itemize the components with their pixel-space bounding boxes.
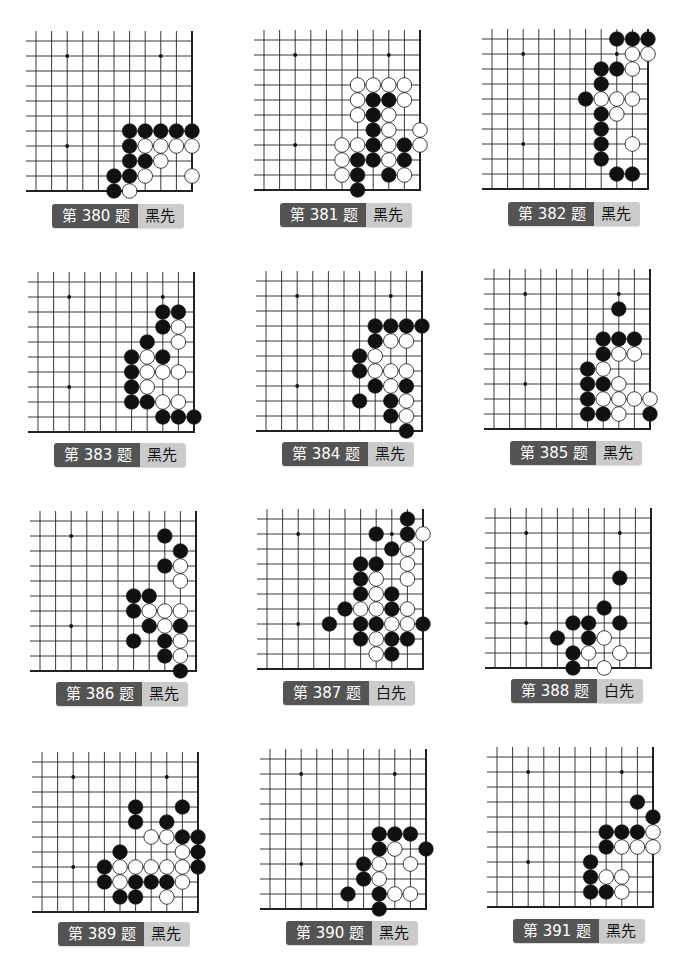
black-stone [187, 410, 202, 425]
white-stone [384, 364, 399, 379]
black-stone [353, 557, 368, 572]
go-board[interactable] [256, 271, 434, 443]
black-stone [113, 845, 128, 860]
black-stone [580, 377, 595, 392]
go-board[interactable] [28, 272, 206, 444]
black-stone [630, 825, 645, 840]
black-stone [352, 349, 367, 364]
star-point [296, 532, 300, 536]
go-board[interactable] [32, 752, 210, 924]
star-point [69, 624, 73, 628]
white-stone [612, 377, 627, 392]
go-board[interactable] [487, 747, 665, 919]
black-stone [599, 840, 614, 855]
black-stone [372, 842, 387, 857]
star-point [165, 775, 169, 779]
white-stone [597, 631, 612, 646]
white-stone [399, 409, 414, 424]
black-stone [124, 395, 139, 410]
black-stone [416, 617, 431, 632]
black-stone [350, 168, 365, 183]
black-stone [583, 855, 598, 870]
white-stone [400, 542, 415, 557]
black-stone [397, 138, 412, 153]
black-stone [369, 527, 384, 542]
white-stone [403, 857, 418, 872]
problem-number: 第 383 题 [54, 443, 140, 467]
black-stone [368, 379, 383, 394]
white-stone [156, 365, 171, 380]
white-stone [612, 407, 627, 422]
black-stone [372, 827, 387, 842]
go-board[interactable] [482, 29, 660, 201]
black-stone [399, 424, 414, 439]
white-stone [185, 169, 200, 184]
go-problem-382: 第 382 题 黑先 [482, 29, 682, 229]
black-stone [643, 407, 658, 422]
black-stone [594, 122, 609, 137]
black-stone [625, 32, 640, 47]
black-stone [583, 870, 598, 885]
white-stone [382, 138, 397, 153]
black-stone [126, 634, 141, 649]
star-point [620, 770, 624, 774]
white-stone [173, 649, 188, 664]
go-board[interactable] [26, 31, 204, 203]
go-board[interactable] [484, 269, 662, 441]
black-stone [566, 661, 581, 676]
go-board[interactable] [30, 511, 208, 683]
problem-number: 第 386 题 [56, 682, 142, 706]
black-stone [353, 632, 368, 647]
star-point [295, 294, 299, 298]
black-stone [175, 830, 190, 845]
first-move-indicator: 白先 [597, 679, 643, 703]
white-stone [160, 890, 175, 905]
problem-label: 第 388 题 白先 [511, 679, 643, 703]
black-stone [366, 123, 381, 138]
go-problem-387: 第 387 题 白先 [257, 509, 457, 709]
star-point [299, 862, 303, 866]
black-stone [415, 319, 430, 334]
black-stone [583, 885, 598, 900]
black-stone [594, 62, 609, 77]
white-stone [397, 78, 412, 93]
black-stone [158, 529, 173, 544]
black-stone [630, 795, 645, 810]
black-stone [382, 168, 397, 183]
black-stone [613, 616, 628, 631]
white-stone [138, 139, 153, 154]
black-stone [610, 32, 625, 47]
go-board[interactable] [254, 30, 432, 202]
black-stone [550, 631, 565, 646]
star-point [618, 531, 622, 535]
white-stone [400, 602, 415, 617]
black-stone [352, 364, 367, 379]
go-board[interactable] [257, 509, 435, 681]
go-board[interactable] [260, 749, 438, 921]
black-stone [368, 319, 383, 334]
black-stone [124, 350, 139, 365]
white-stone [113, 875, 128, 890]
white-stone [646, 825, 661, 840]
go-problem-386: 第 386 题 黑先 [30, 511, 230, 711]
white-stone [171, 365, 186, 380]
white-stone [185, 139, 200, 154]
black-stone [581, 616, 596, 631]
problem-label: 第 382 题 黑先 [508, 202, 640, 226]
black-stone [128, 890, 143, 905]
star-point [521, 52, 525, 56]
black-stone [399, 319, 414, 334]
go-problem-388: 第 388 题 白先 [485, 508, 685, 708]
black-stone [369, 557, 384, 572]
white-stone [416, 527, 431, 542]
go-board[interactable] [485, 508, 663, 680]
black-stone [385, 542, 400, 557]
white-stone [175, 875, 190, 890]
white-stone [350, 108, 365, 123]
white-stone [113, 860, 128, 875]
white-stone [128, 860, 143, 875]
star-point [67, 295, 71, 299]
black-stone [612, 332, 627, 347]
black-stone [580, 362, 595, 377]
first-move-indicator: 黑先 [596, 441, 642, 465]
